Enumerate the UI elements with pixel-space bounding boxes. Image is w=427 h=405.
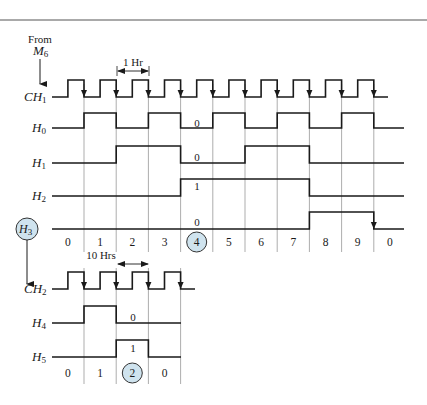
count-cell: 1 xyxy=(97,367,103,379)
timing-diagram: From M6 1 Hr CH1 H0 H1 H2 H3 0 0 1 0 012… xyxy=(0,0,427,405)
period-marker-10hrs: 10 Hrs xyxy=(86,249,148,264)
period-marker-1hr: 1 Hr xyxy=(117,56,149,76)
count-cell: 2 xyxy=(129,236,135,248)
count-cell: 5 xyxy=(226,236,232,248)
signal-label-h5: H5 xyxy=(31,349,46,365)
annotation-h1: 0 xyxy=(194,151,200,163)
count-cell: 0 xyxy=(65,236,71,248)
count-cell: 8 xyxy=(323,236,329,248)
source-label-m6: M6 xyxy=(32,43,49,59)
count-cell: 6 xyxy=(258,236,264,248)
bottom-waveforms xyxy=(52,272,195,357)
count-cell: 7 xyxy=(290,236,296,248)
annotation-h3: 0 xyxy=(194,216,200,228)
signal-label-ch1: CH1 xyxy=(24,89,47,105)
annotation-h0: 0 xyxy=(194,117,200,129)
top-gridlines xyxy=(84,84,374,252)
svg-text:1 Hr: 1 Hr xyxy=(123,56,143,68)
annotation-h2: 1 xyxy=(194,180,200,192)
count-cell: 0 xyxy=(65,367,71,379)
top-waveforms xyxy=(52,80,404,229)
count-cell: 4 xyxy=(194,236,200,248)
count-cell: 0 xyxy=(387,236,393,248)
signal-label-h3-highlight: H3 xyxy=(16,218,38,240)
count-cell: 1 xyxy=(97,236,103,248)
annotation-h5: 1 xyxy=(130,342,136,354)
signal-label-ch2: CH2 xyxy=(24,281,47,297)
signal-label-h0: H0 xyxy=(31,120,46,136)
count-cell: 9 xyxy=(355,236,361,248)
count-cell: 2 xyxy=(129,367,135,379)
annotation-h4: 0 xyxy=(130,311,136,323)
signal-label-h2: H2 xyxy=(31,188,46,204)
signal-label-h4: H4 xyxy=(31,315,46,331)
signal-label-h1: H1 xyxy=(31,155,46,171)
count-cell: 3 xyxy=(162,236,168,248)
svg-text:10 Hrs: 10 Hrs xyxy=(86,249,116,261)
count-cell: 0 xyxy=(162,367,168,379)
